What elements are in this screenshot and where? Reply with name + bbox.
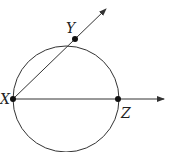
point-y xyxy=(72,36,78,42)
point-x xyxy=(10,96,16,102)
ray-xy xyxy=(13,9,106,99)
label-y: Y xyxy=(66,20,77,36)
point-z xyxy=(115,96,121,102)
geometry-diagram: X Y Z xyxy=(0,0,169,152)
label-z: Z xyxy=(120,105,131,121)
label-x: X xyxy=(0,91,11,107)
